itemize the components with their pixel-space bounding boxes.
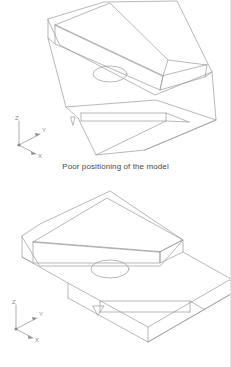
base-plate-right-edge bbox=[145, 120, 216, 150]
top-face-outline bbox=[22, 191, 183, 266]
axis-x-label: X bbox=[38, 153, 42, 159]
left-vertical-edge bbox=[22, 236, 33, 263]
axis-triad-preferred: Z Y X bbox=[12, 299, 43, 343]
plate-top-surface bbox=[66, 100, 216, 120]
axis-triad-poor: Z Y X bbox=[15, 115, 46, 159]
model-wireframe-poor bbox=[48, 1, 216, 155]
axis-x-line bbox=[19, 145, 36, 154]
axis-y-label: Y bbox=[39, 311, 43, 317]
axis-z-label: Z bbox=[15, 115, 19, 121]
poor-positioning-drawing: Z Y X bbox=[0, 0, 231, 184]
axis-x-label: X bbox=[35, 337, 39, 343]
preferred-positioning-drawing: Z Y X bbox=[0, 184, 231, 367]
notch-detail bbox=[71, 117, 75, 125]
notch-detail bbox=[93, 306, 104, 315]
axis-x-line bbox=[16, 329, 33, 338]
body-left-contour bbox=[48, 38, 78, 118]
axis-y-label: Y bbox=[42, 127, 46, 133]
top-face-outline bbox=[48, 1, 212, 95]
rib-front-wall bbox=[55, 25, 163, 90]
base-plate-left-face bbox=[78, 118, 145, 155]
axis-z-label: Z bbox=[12, 299, 16, 305]
rib-front-wall bbox=[33, 242, 160, 263]
rib-top-face bbox=[55, 3, 168, 76]
rib-end-face bbox=[160, 65, 207, 90]
figure-poor-positioning: Z Y X Poor positioning of the model bbox=[0, 0, 231, 184]
axis-origin-marker bbox=[17, 143, 20, 146]
axis-origin-marker bbox=[14, 327, 17, 330]
figure-page: Z Y X Poor positioning of the model bbox=[0, 0, 231, 367]
plate-top-surface bbox=[68, 279, 231, 327]
step-riser bbox=[100, 301, 205, 310]
rib-upper-edge bbox=[168, 60, 207, 65]
figure-preferred-positioning: Z Y X Preferred positioning of the model bbox=[0, 184, 231, 367]
caption-poor-positioning: Poor positioning of the model bbox=[0, 162, 231, 172]
base-plate-top-edge bbox=[81, 121, 189, 122]
model-wireframe-preferred bbox=[22, 191, 231, 342]
base-plate-front-edge bbox=[96, 121, 166, 155]
body-right-contour bbox=[145, 72, 216, 150]
